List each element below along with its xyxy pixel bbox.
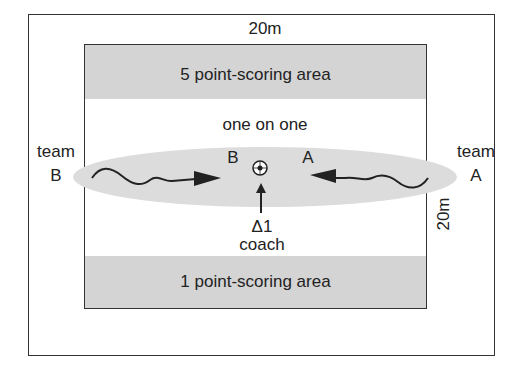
team-b-line1: team: [28, 142, 84, 162]
height-label: 20m: [434, 194, 454, 234]
soccer-ball-icon: [253, 161, 267, 175]
coach-label: coach: [222, 235, 302, 255]
team-a-line1: team: [448, 142, 504, 162]
player-b: B: [225, 148, 241, 168]
team-a-line2: A: [448, 166, 504, 186]
one-on-one-zone: [73, 147, 457, 207]
team-b-label: team B: [28, 142, 84, 186]
player-a: A: [300, 148, 316, 168]
center-label: one on one: [200, 115, 330, 135]
team-b-line2: B: [28, 166, 84, 186]
team-a-label: team A: [448, 142, 504, 186]
coach-marker: Δ1: [232, 217, 292, 237]
